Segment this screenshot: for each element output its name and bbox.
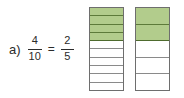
bar-cell-shaded — [90, 33, 123, 41]
fraction-four-tenths: 4 10 — [28, 35, 42, 62]
bar-cell-empty — [136, 74, 169, 90]
fraction-denominator: 10 — [28, 51, 42, 63]
bar-cell-shaded — [90, 8, 123, 16]
bar-cell-shaded — [90, 16, 123, 24]
fraction-numerator: 2 — [63, 35, 71, 47]
bar-cell-empty — [90, 41, 123, 49]
equation-row: a) 4 10 = 2 5 — [9, 30, 74, 68]
five-part-bar-model — [135, 7, 170, 91]
ten-part-bar-model — [89, 7, 124, 91]
item-label: a) — [9, 43, 21, 56]
bar-cell-shaded — [90, 25, 123, 33]
bar-cell-empty — [90, 66, 123, 74]
fraction-numerator: 4 — [31, 35, 39, 47]
bar-cell-shaded — [136, 8, 169, 25]
bar-cell-empty — [90, 74, 123, 82]
bar-cell-empty — [90, 58, 123, 66]
bar-cell-shaded — [136, 25, 169, 42]
fraction-denominator: 5 — [63, 51, 71, 63]
fraction-equivalence-figure: a) 4 10 = 2 5 — [0, 0, 184, 98]
bar-cell-empty — [90, 49, 123, 57]
bar-cell-empty — [136, 41, 169, 58]
fraction-two-fifths: 2 5 — [61, 35, 74, 62]
bar-cell-empty — [90, 83, 123, 90]
equals-sign: = — [48, 43, 55, 55]
bar-cell-empty — [136, 58, 169, 75]
